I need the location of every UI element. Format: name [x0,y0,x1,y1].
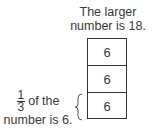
diagram-title: The larger number is 18. [68,5,148,33]
fraction-denominator: 3 [17,102,26,113]
title-line-2: number is 18. [68,19,148,33]
annotation-label: 1 3 of the number is 6. [2,90,74,127]
annotation-line-2: number is 6. [2,113,74,127]
tape-diagram: 6 6 6 [87,38,127,119]
curly-brace-icon [74,93,84,121]
tape-cell-3: 6 [88,93,126,120]
tape-cell-2: 6 [88,66,126,93]
title-line-1: The larger [68,5,148,19]
annotation-line-1: of the [28,94,59,108]
tape-cell-1: 6 [88,39,126,66]
fraction: 1 3 [17,90,26,113]
